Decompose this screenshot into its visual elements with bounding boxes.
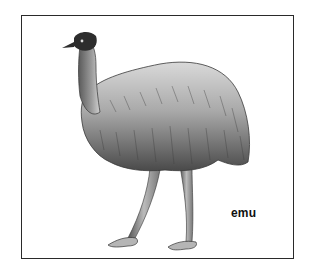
head	[62, 32, 97, 51]
neck	[79, 40, 101, 114]
caption-label: emu	[231, 206, 256, 220]
emu-illustration	[0, 0, 309, 277]
legs	[108, 166, 197, 250]
body	[81, 62, 249, 171]
